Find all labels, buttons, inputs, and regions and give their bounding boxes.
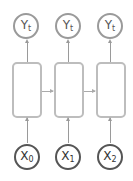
arrow-cell0-to-output0 (27, 41, 28, 62)
rnn-cell-1 (54, 62, 84, 118)
arrowhead-up-icon (25, 117, 29, 121)
output-node-0: Yt (13, 13, 39, 39)
arrow-cell1-to-output1 (68, 41, 69, 62)
arrow-input0-to-cell0 (27, 118, 28, 143)
arrow-input2-to-cell2 (110, 118, 111, 143)
input-label-0: X0 (20, 150, 33, 164)
rnn-cell-2 (96, 62, 126, 118)
input-node-2: X2 (97, 144, 123, 170)
output-node-1: Yt (55, 13, 81, 39)
arrowhead-up-icon (25, 39, 29, 43)
arrowhead-up-icon (66, 117, 70, 121)
arrowhead-up-icon (108, 117, 112, 121)
input-node-1: X1 (55, 144, 81, 170)
arrow-cell2-to-output2 (110, 41, 111, 62)
rnn-cell-0 (12, 62, 42, 118)
arrowhead-up-icon (66, 39, 70, 43)
output-label-0: Yt (21, 19, 31, 33)
input-node-0: X0 (14, 144, 40, 170)
arrow-input1-to-cell1 (68, 118, 69, 143)
arrowhead-up-icon (108, 39, 112, 43)
output-label-1: Yt (63, 19, 73, 33)
input-label-2: X2 (103, 150, 116, 164)
input-label-1: X1 (61, 150, 74, 164)
output-node-2: Yt (97, 13, 123, 39)
output-label-2: Yt (105, 19, 115, 33)
